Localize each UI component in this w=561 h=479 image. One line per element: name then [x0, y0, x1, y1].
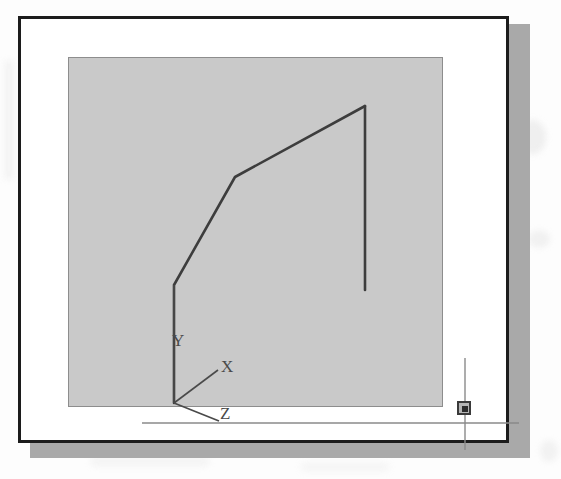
pickbox-core: [462, 406, 468, 412]
ucs-axis-label-y: Y: [172, 331, 184, 350]
ucs-axis-z-line: [174, 403, 219, 421]
scanned-page-background: Y X Z: [0, 0, 561, 479]
profile-polyline[interactable]: [174, 106, 365, 403]
ucs-coordinate-tripod: Y X Z: [172, 285, 233, 423]
cad-application-window[interactable]: Y X Z: [18, 16, 509, 443]
ucs-axis-label-x: X: [221, 357, 233, 376]
ucs-axis-label-z: Z: [220, 404, 230, 423]
drawing-vector-layer: Y X Z: [22, 20, 513, 447]
drawing-canvas[interactable]: Y X Z: [68, 57, 443, 407]
ucs-axis-x-line: [174, 370, 218, 403]
pickbox[interactable]: [457, 401, 471, 415]
